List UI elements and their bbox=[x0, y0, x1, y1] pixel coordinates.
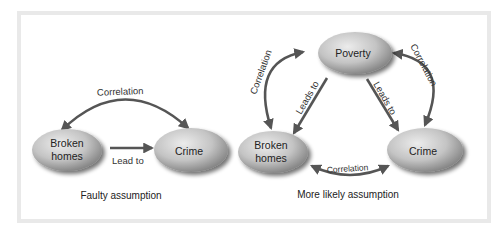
correlation-arrow-left-panel bbox=[62, 99, 188, 130]
node-broken-homes-left-line2: homes bbox=[51, 150, 83, 162]
node-broken-homes-right-line2: homes bbox=[255, 152, 287, 164]
correlation-label-right: Correlation bbox=[408, 42, 440, 88]
node-crime-right: Crime bbox=[387, 128, 463, 172]
node-crime-left: Crime bbox=[154, 128, 228, 172]
node-broken-homes-right: Broken homes bbox=[238, 131, 308, 173]
node-crime-left-label: Crime bbox=[175, 145, 203, 157]
correlation-arrow-poverty-broken-homes bbox=[265, 52, 303, 128]
node-crime-right-label: Crime bbox=[409, 145, 437, 157]
right-panel: Correlation Correlation Leads to Leads t… bbox=[238, 32, 463, 200]
correlation-label: Correlation bbox=[97, 85, 144, 98]
diagram-canvas: Correlation Lead to Broken homes Crime F… bbox=[0, 0, 500, 229]
node-broken-homes-right-line1: Broken bbox=[254, 139, 287, 151]
node-poverty-label: Poverty bbox=[335, 47, 371, 59]
node-poverty: Poverty bbox=[318, 32, 392, 74]
caption-more-likely-assumption: More likely assumption bbox=[297, 189, 399, 200]
left-panel: Correlation Lead to Broken homes Crime F… bbox=[32, 85, 228, 201]
caption-faulty-assumption: Faulty assumption bbox=[80, 190, 161, 201]
node-broken-homes-left: Broken homes bbox=[32, 129, 102, 171]
node-broken-homes-left-line1: Broken bbox=[50, 137, 83, 149]
lead-to-label: Lead to bbox=[112, 155, 144, 166]
